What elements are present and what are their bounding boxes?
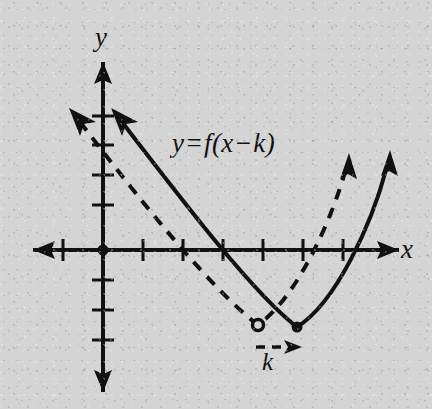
x-axis-label: x: [401, 234, 413, 265]
equation-lhs: y: [172, 128, 184, 158]
shift-amount-label: k: [262, 348, 273, 376]
equation-equals-sign: =: [184, 128, 204, 158]
original-vertex-open-circle: [253, 320, 264, 331]
original-curve-left-arrowhead: [69, 108, 96, 136]
original-curve-right-arrowhead: [340, 153, 357, 179]
shifted-vertex-dot: [292, 322, 303, 333]
equation-minus-sign: −: [234, 128, 254, 158]
coordinate-plot: [0, 0, 432, 409]
k-shift-arrowhead: [284, 340, 302, 354]
shifted-curve-right-arrowhead: [381, 150, 398, 176]
equation-label: y=f(x−k): [172, 128, 275, 159]
axes-group: [33, 62, 399, 392]
equation-function: f(x: [204, 128, 234, 158]
equation-argument: k): [253, 128, 275, 158]
y-axis-label: y: [95, 22, 107, 53]
shifted-curve-left-arrowhead: [111, 108, 138, 136]
origin-point: [98, 245, 109, 256]
graph-figure: y x k y=f(x−k): [0, 0, 432, 409]
